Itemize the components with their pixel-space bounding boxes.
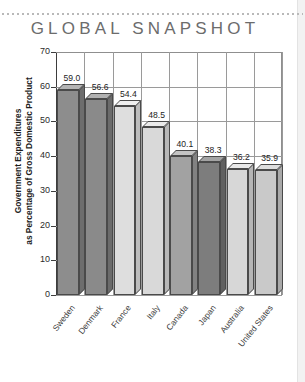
bar-side-face bbox=[220, 156, 226, 295]
y-axis-tick-label: 50 bbox=[24, 115, 50, 125]
y-axis-tick-label: 60 bbox=[24, 81, 50, 91]
bar-front-face bbox=[170, 156, 192, 295]
bar-canada[interactable] bbox=[170, 156, 192, 295]
bar-italy[interactable] bbox=[142, 127, 164, 295]
bar-australia[interactable] bbox=[227, 169, 249, 295]
right-edge-band bbox=[297, 0, 305, 382]
bar-side-face bbox=[107, 93, 113, 295]
bar-side-face bbox=[248, 163, 254, 295]
y-axis-tick-label: 70 bbox=[24, 46, 50, 56]
bar-value-label: 59.0 bbox=[64, 73, 81, 83]
bar-value-label: 36.2 bbox=[233, 152, 250, 162]
bar-side-face bbox=[164, 121, 170, 295]
plot-area: 59.056.654.448.540.138.336.235.9 bbox=[56, 52, 282, 295]
bar-value-label: 54.4 bbox=[120, 89, 137, 99]
bar-denmark[interactable] bbox=[85, 99, 107, 295]
bar-value-label: 56.6 bbox=[92, 82, 109, 92]
chart-page: GLOBAL SNAPSHOT Government Expenditures … bbox=[0, 0, 305, 382]
bar-france[interactable] bbox=[114, 106, 136, 295]
bar-value-label: 48.5 bbox=[148, 110, 165, 120]
y-axis-ticks: 010203040506070 bbox=[0, 0, 50, 382]
y-axis-tick-label: 10 bbox=[24, 254, 50, 264]
bar-side-face bbox=[135, 100, 141, 295]
bar-front-face bbox=[85, 99, 107, 295]
y-axis-tick-label: 40 bbox=[24, 150, 50, 160]
bar-front-face bbox=[255, 170, 277, 295]
bar-japan[interactable] bbox=[198, 162, 220, 295]
gridline-horizontal bbox=[56, 295, 282, 296]
bar-sweden[interactable] bbox=[57, 90, 79, 295]
bar-front-face bbox=[142, 127, 164, 295]
bar-front-face bbox=[114, 106, 136, 295]
y-axis-tick-label: 20 bbox=[24, 220, 50, 230]
bar-side-face bbox=[277, 164, 283, 295]
bar-united-states[interactable] bbox=[255, 170, 277, 295]
bar-front-face bbox=[57, 90, 79, 295]
bar-side-face bbox=[79, 84, 85, 295]
bar-side-face bbox=[192, 150, 198, 295]
bar-front-face bbox=[227, 169, 249, 295]
bar-value-label: 40.1 bbox=[177, 139, 194, 149]
y-axis-tick-label: 30 bbox=[24, 185, 50, 195]
y-axis-tick-label: 0 bbox=[24, 289, 50, 299]
bar-value-label: 35.9 bbox=[261, 153, 278, 163]
bar-value-label: 38.3 bbox=[205, 145, 222, 155]
bar-front-face bbox=[198, 162, 220, 295]
